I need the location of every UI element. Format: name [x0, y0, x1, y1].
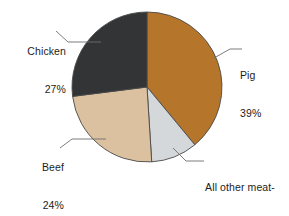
- pie-label-chicken-name: Chicken: [8, 45, 66, 58]
- pie-label-pig-value: 39%: [240, 107, 284, 120]
- pie-slice-beef[interactable]: [73, 87, 152, 162]
- pie-label-chicken: Chicken 27%: [8, 20, 66, 120]
- pie-label-beef-value: 24%: [6, 199, 64, 212]
- pie-label-chicken-value: 27%: [8, 83, 66, 96]
- pie-label-other: All other meat- producing species 10%: [194, 156, 286, 216]
- pie-label-other-line1: All other meat-: [194, 181, 286, 194]
- leader-line-pig: [214, 49, 242, 58]
- pie-label-beef-name: Beef: [6, 161, 64, 174]
- pie-label-beef: Beef 24%: [6, 136, 64, 216]
- pie-label-pig: Pig 39%: [240, 44, 284, 144]
- pie-slice-chicken[interactable]: [72, 12, 147, 96]
- pie-label-pig-name: Pig: [240, 69, 284, 82]
- chart-canvas: Chicken 27% Pig 39% Beef 24% All other m…: [0, 0, 289, 216]
